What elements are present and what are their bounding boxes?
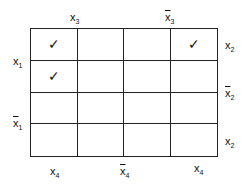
cell: ✓	[31, 29, 78, 61]
cell: ✓	[171, 29, 218, 61]
cell	[171, 124, 218, 156]
label-x3-bar: x3	[165, 12, 174, 25]
map-grid: ✓ ✓ ✓	[30, 28, 218, 157]
cell	[124, 93, 171, 125]
cell	[171, 61, 218, 93]
cell	[31, 124, 78, 156]
label-x2-bottom: x2	[225, 136, 234, 149]
label-x4-right: x4	[194, 163, 203, 176]
cell	[31, 93, 78, 125]
label-x2-top: x2	[225, 40, 234, 53]
cell	[124, 124, 171, 156]
cell: ✓	[31, 61, 78, 93]
cell	[124, 29, 171, 61]
cell	[78, 29, 125, 61]
cell	[78, 61, 125, 93]
cell	[78, 124, 125, 156]
label-x3: x3	[70, 12, 79, 25]
label-x2-bar: x2	[225, 88, 234, 101]
cell	[171, 93, 218, 125]
cell	[78, 93, 125, 125]
label-x1: x1	[13, 56, 22, 69]
cell	[124, 61, 171, 93]
label-x4-bar: x4	[120, 166, 129, 179]
label-x1-bar: x1	[13, 118, 22, 131]
label-x4-left: x4	[50, 166, 59, 179]
